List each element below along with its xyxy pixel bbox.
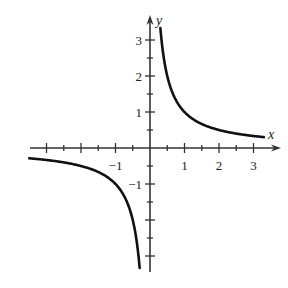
x-tick-label: 2 xyxy=(216,158,223,173)
y-tick-label: 3 xyxy=(136,33,143,48)
y-tick-label: 1 xyxy=(136,105,143,120)
x-tick-label: −1 xyxy=(109,158,123,173)
right-branch-curve xyxy=(160,28,264,137)
left-branch-curve xyxy=(29,158,139,268)
x-tick-label: 1 xyxy=(181,158,188,173)
axes xyxy=(30,15,281,272)
x-axis-label: x xyxy=(267,127,275,142)
y-tick-label: 2 xyxy=(136,69,143,84)
y-tick-label: −1 xyxy=(128,177,142,192)
tick-labels: −1123321−1 xyxy=(109,33,257,192)
hyperbola-plot: −1123321−1 x y xyxy=(0,0,288,288)
x-tick-label: 3 xyxy=(250,158,257,173)
y-axis-label: y xyxy=(154,13,163,28)
